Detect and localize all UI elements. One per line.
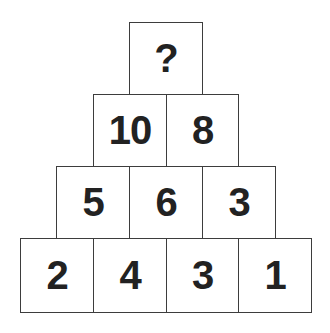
pyramid-cell: 5 [56,166,130,239]
pyramid-cell: 3 [202,166,276,239]
pyramid-cell-unknown: ? [129,22,203,95]
pyramid-cell: 1 [238,238,312,313]
number-pyramid: ? 10 8 5 6 3 2 4 3 1 [0,0,330,333]
pyramid-cell: 4 [93,238,167,313]
pyramid-cell: 6 [129,166,203,239]
pyramid-cell: 10 [93,94,167,167]
pyramid-cell: 3 [166,238,239,313]
pyramid-cell: 8 [166,94,239,167]
pyramid-cell: 2 [20,238,94,313]
